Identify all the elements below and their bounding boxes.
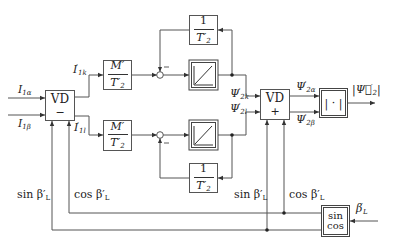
junction-top [230, 73, 234, 77]
vd-left-sign: − [55, 107, 64, 118]
label-psi2b: Ψ′2β [296, 114, 315, 127]
gain-top-num: M′ [109, 60, 127, 72]
magnitude-block: | · | [319, 88, 348, 118]
vd-right-block: VD + [260, 89, 290, 120]
label-sin-left: sin β′L [17, 189, 50, 202]
junction-sin [265, 228, 269, 232]
feedback-top-num: 1 [198, 15, 209, 27]
gain-bottom-num: M′ [109, 121, 127, 133]
wire-fb-bottom-in [218, 135, 232, 178]
wire-fb-top-out [160, 30, 189, 72]
gain-bottom-den: T′ [110, 136, 120, 149]
magnitude-label: | · | [325, 98, 343, 109]
label-psi2k: Ψ′2k [230, 88, 249, 101]
wire-fb-top-in [218, 30, 232, 75]
vd-right-sign: + [270, 106, 279, 117]
label-i1k: I′1k [73, 64, 87, 77]
wire-sin [52, 121, 321, 230]
feedback-top-den: T′ [196, 31, 206, 44]
gain-top-den: T′ [110, 76, 120, 89]
feedback-bottom-den: T′ [196, 179, 206, 192]
feedback-block-bottom: 1 T′2 [189, 163, 218, 193]
label-sin-right: sin β′L [234, 189, 267, 202]
vd-left-block: VD − [45, 90, 75, 121]
vd-right-label: VD [266, 92, 284, 104]
integrator-top [189, 60, 218, 90]
label-output-flux-magnitude: |Ψ⃗′2| [352, 84, 381, 97]
gain-top-den-sub: 2 [120, 82, 124, 90]
label-i1beta: I1β [18, 118, 31, 131]
label-i1alpha: I1α [18, 84, 32, 97]
gain-block-top: M′ T′2 [103, 60, 132, 90]
vd-left-label: VD [51, 93, 69, 105]
feedback-top-den-sub: 2 [206, 37, 210, 45]
gain-block-bottom: M′ T′2 [103, 120, 132, 151]
summer-bottom [157, 132, 164, 139]
summer-top [157, 72, 164, 79]
label-cos-right: cos β′L [289, 189, 324, 202]
integrator-bottom [189, 120, 218, 150]
label-psi2a: Ψ′2α [296, 81, 315, 94]
feedback-bottom-den-sub: 2 [206, 185, 210, 193]
junction-cos [282, 211, 286, 215]
feedback-bottom-num: 1 [198, 163, 209, 175]
label-betaL: β′L [356, 203, 368, 216]
label-psi2l: Ψ′2l [230, 103, 247, 116]
junction-bottom [230, 133, 234, 137]
sincos-cos-label: cos [327, 221, 344, 232]
wire-fb-bottom-out [160, 138, 189, 178]
gain-bottom-den-sub: 2 [120, 142, 124, 150]
sincos-block: sin cos [321, 205, 350, 237]
feedback-block-top: 1 T′2 [189, 15, 218, 45]
label-cos-left: cos β′L [74, 189, 109, 202]
wire-i1k [75, 75, 103, 97]
label-i1l: I′1l [74, 122, 86, 135]
